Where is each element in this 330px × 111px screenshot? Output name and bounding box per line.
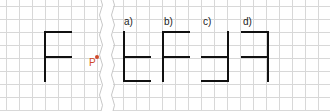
option-d-shape bbox=[242, 32, 268, 81]
option-b-shape bbox=[163, 32, 189, 81]
point-p-label: P bbox=[89, 57, 96, 68]
option-d-label: d) bbox=[243, 16, 252, 27]
option-a-label: a) bbox=[124, 16, 133, 27]
grid-diagram: P a) b) c) d) bbox=[0, 0, 330, 111]
original-f-shape bbox=[45, 32, 71, 81]
option-c-label: c) bbox=[203, 16, 211, 27]
option-a-shape bbox=[124, 32, 150, 81]
option-b-label: b) bbox=[164, 16, 173, 27]
option-c-shape bbox=[202, 32, 228, 81]
